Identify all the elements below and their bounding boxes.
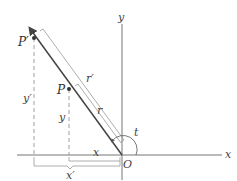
point-p-prime — [32, 36, 36, 40]
ray-o-to-p-prime — [31, 30, 122, 155]
y-axis-label: y — [117, 11, 125, 24]
x-prime-label: x′ — [66, 169, 75, 181]
point-p — [67, 87, 71, 91]
angle-label: t — [134, 126, 139, 139]
origin-label: O — [123, 158, 132, 171]
scaling-diagram: y x O P′ P r′ r t y′ y x x′ — [0, 0, 237, 181]
y-label: y — [58, 111, 66, 124]
x-prime-bracket — [34, 157, 120, 169]
r-prime-bracket — [40, 29, 124, 142]
p-prime-label: P′ — [17, 35, 29, 49]
x-axis-label: x — [225, 148, 232, 161]
y-prime-label: y′ — [22, 92, 32, 105]
r-prime-label: r′ — [86, 72, 94, 85]
x-label: x — [93, 146, 100, 159]
p-label: P — [56, 83, 66, 97]
r-label: r — [97, 104, 103, 117]
